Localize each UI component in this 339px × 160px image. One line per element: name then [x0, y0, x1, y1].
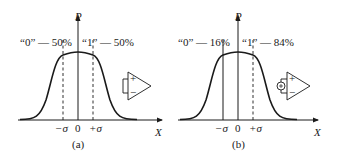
y-axis-label-a: P	[74, 10, 82, 22]
tick-zero-a: 0	[75, 122, 81, 134]
x-axis-arrow-icon	[157, 118, 163, 123]
figure: P X “0” — 50% “1” — 50% −σ 0 +σ (a) + − …	[0, 0, 339, 160]
plus-sign-icon: +	[289, 72, 295, 84]
tick-plus-sigma-a: +σ	[89, 122, 102, 134]
y-axis-label-b: P	[234, 10, 242, 22]
minus-sign-icon: −	[130, 86, 136, 98]
tick-minus-sigma-b: −σ	[215, 122, 228, 134]
caption-b: (b)	[232, 138, 245, 151]
comparator-shorted-icon: + −	[123, 72, 151, 100]
x-axis-label-b: X	[313, 126, 322, 138]
tick-zero-b: 0	[235, 122, 241, 134]
x-axis-label-a: X	[154, 126, 163, 138]
one-probability-label-b: “1” — 84%	[242, 36, 294, 48]
comparator-offset-source-icon: + −	[277, 72, 310, 100]
one-probability-label-a: “1” — 50%	[82, 36, 134, 48]
x-axis-arrow-icon	[313, 118, 319, 123]
panel-b: P X “0” — 16% “1” — 84% −σ 0 +σ (b) + −	[178, 10, 322, 151]
zero-probability-label-b: “0” — 16%	[178, 36, 230, 48]
caption-a: (a)	[72, 138, 85, 151]
panel-a: P X “0” — 50% “1” — 50% −σ 0 +σ (a) + −	[18, 10, 163, 151]
tick-plus-sigma-b: +σ	[249, 122, 262, 134]
plus-sign-icon: +	[130, 72, 136, 84]
zero-probability-label-a: “0” — 50%	[20, 36, 72, 48]
tick-minus-sigma-a: −σ	[55, 122, 68, 134]
minus-sign-icon: −	[289, 86, 295, 98]
